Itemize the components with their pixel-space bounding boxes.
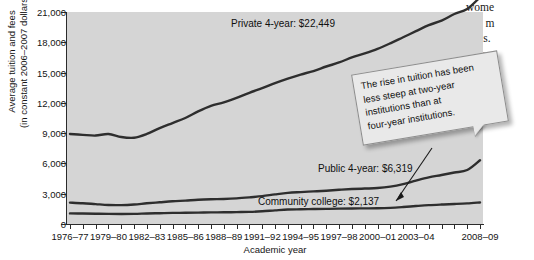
series-label-private-4-year: Private 4-year: $22,449 bbox=[231, 18, 335, 29]
series-label-public-4-year: Public 4-year: $6,319 bbox=[318, 163, 413, 174]
series-label-community-college: Community college: $2,137 bbox=[258, 196, 379, 207]
y-axis-title: Average tuition and fees (in constant 20… bbox=[6, 0, 29, 157]
y-axis-title-line2: (in constant 2006–2007 dollars) bbox=[17, 0, 29, 157]
callout-tail bbox=[473, 123, 487, 136]
y-axis-title-line1: Average tuition and fees bbox=[6, 0, 18, 157]
x-axis-title: Academic year bbox=[67, 244, 483, 255]
figure-page: wome and m tuals. fem 03,0006,0009,00012… bbox=[0, 0, 534, 260]
line-chart: 03,0006,0009,00012,00015,00018,00021,000… bbox=[0, 0, 534, 260]
